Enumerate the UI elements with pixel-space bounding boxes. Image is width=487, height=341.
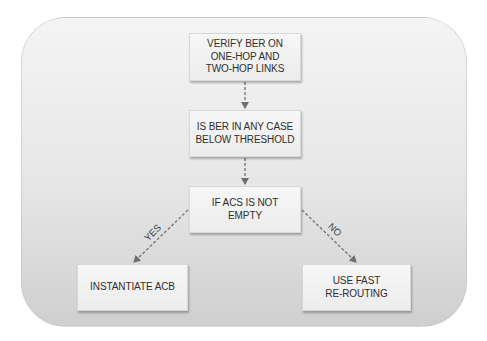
edge-acs-reroute xyxy=(302,210,356,262)
node-fast-rerouting: USE FAST RE-ROUTING xyxy=(302,264,411,311)
node-acs-not-empty: IF ACS IS NOT EMPTY xyxy=(189,186,301,233)
node-verify-ber: VERIFY BER ON ONE-HOP AND TWO-HOP LINKS xyxy=(189,33,301,81)
node-instantiate-acb: INSTANTIATE ACB xyxy=(77,264,188,311)
node-ber-below-threshold: IS BER IN ANY CASE BELOW THRESHOLD xyxy=(189,110,301,157)
